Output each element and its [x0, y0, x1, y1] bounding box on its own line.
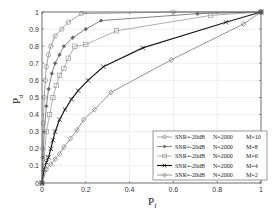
y-axis-label: Pd: [10, 94, 25, 104]
x-axis-label: Pf: [148, 195, 157, 210]
legend-n: N=2000: [213, 144, 233, 150]
x-marker-icon: [101, 65, 105, 69]
y-tick-label: 1: [35, 9, 39, 16]
y-tick-label: 0.6: [29, 77, 39, 84]
y-tick-label: 0.1: [29, 162, 39, 169]
legend-snr: SNR=-20dB: [175, 172, 205, 178]
y-tick-label: 0.8: [29, 43, 39, 50]
star-marker-icon: [57, 53, 61, 57]
legend-m: M=4: [246, 163, 258, 169]
x-marker-icon: [76, 88, 80, 92]
y-tick-label: 0.3: [29, 128, 39, 135]
star-marker-icon: [53, 61, 57, 65]
star-marker-icon: [84, 27, 88, 31]
y-tick-label: 0.9: [29, 26, 39, 33]
legend-m: M=6: [246, 153, 258, 159]
roc-chart: 00.20.40.60.8100.10.20.30.40.50.60.70.80…: [0, 0, 275, 221]
x-tick-label: 0.2: [81, 186, 91, 193]
legend-m: M=10: [246, 134, 261, 140]
x-tick-label: 1: [259, 186, 263, 193]
y-tick-label: 0: [35, 180, 39, 187]
legend-snr: SNR=-20dB: [175, 153, 205, 159]
star-marker-icon: [50, 71, 54, 75]
x-tick-label: 0.4: [125, 186, 135, 193]
y-tick-label: 0.4: [29, 111, 39, 118]
legend: SNR=-20dBN=2000M=10SNR=-20dBN=2000M=8SNR…: [153, 131, 267, 180]
x-tick-label: 0: [40, 186, 44, 193]
x-tick-label: 0.6: [169, 186, 179, 193]
x-tick-label: 0.8: [212, 186, 222, 193]
star-marker-icon: [99, 18, 103, 22]
y-tick-label: 0.5: [29, 94, 39, 101]
legend-n: N=2000: [213, 153, 233, 159]
legend-snr: SNR=-20dB: [175, 163, 205, 169]
legend-snr: SNR=-20dB: [175, 134, 205, 140]
legend-n: N=2000: [213, 172, 233, 178]
y-tick-label: 0.7: [29, 60, 39, 67]
legend-snr: SNR=-20dB: [175, 144, 205, 150]
legend-m: M=8: [246, 144, 258, 150]
legend-m: M=2: [246, 172, 258, 178]
x-marker-icon: [63, 107, 67, 111]
legend-n: N=2000: [213, 134, 233, 140]
star-marker-icon: [46, 87, 50, 91]
y-tick-label: 0.2: [29, 145, 39, 152]
y-axis-label-sub: d: [17, 94, 25, 98]
x-axis-label-sub: f: [154, 202, 157, 210]
legend-n: N=2000: [213, 163, 233, 169]
star-marker-icon: [44, 104, 48, 108]
